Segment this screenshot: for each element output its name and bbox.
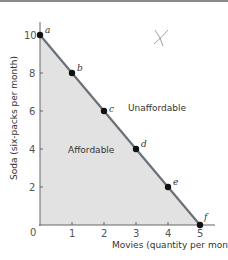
x-axis-title: Movies (quantity per month) bbox=[112, 240, 228, 250]
point-label-f: f bbox=[203, 212, 209, 222]
point-d bbox=[133, 146, 139, 152]
y-axis-title: Soda (six-packs per month) bbox=[9, 56, 19, 180]
origin-label: 0 bbox=[30, 227, 36, 238]
point-b bbox=[69, 70, 75, 76]
x-tick-4: 4 bbox=[165, 228, 171, 239]
point-label-a: a bbox=[45, 25, 50, 35]
y-tick-10: 10 bbox=[24, 30, 37, 41]
point-e bbox=[165, 184, 171, 190]
point-c bbox=[101, 108, 107, 114]
handwritten-x-mark bbox=[154, 30, 168, 46]
x-tick-3: 3 bbox=[133, 228, 139, 239]
y-tick-4: 4 bbox=[29, 144, 35, 155]
point-label-e: e bbox=[173, 177, 178, 187]
budget-line-chart: a b c d e f 0 1 2 3 4 5 2 4 6 8 10 Movie… bbox=[0, 0, 228, 260]
point-label-b: b bbox=[77, 63, 83, 73]
point-label-d: d bbox=[141, 139, 147, 149]
x-tick-1: 1 bbox=[69, 228, 75, 239]
x-tick-2: 2 bbox=[101, 228, 107, 239]
point-label-c: c bbox=[109, 104, 114, 114]
y-tick-6: 6 bbox=[29, 106, 35, 117]
x-tick-5: 5 bbox=[197, 228, 203, 239]
point-a bbox=[37, 32, 43, 38]
unaffordable-label: Unaffordable bbox=[128, 103, 186, 113]
affordable-label: Affordable bbox=[68, 145, 115, 155]
y-tick-2: 2 bbox=[29, 182, 35, 193]
y-tick-8: 8 bbox=[29, 68, 35, 79]
